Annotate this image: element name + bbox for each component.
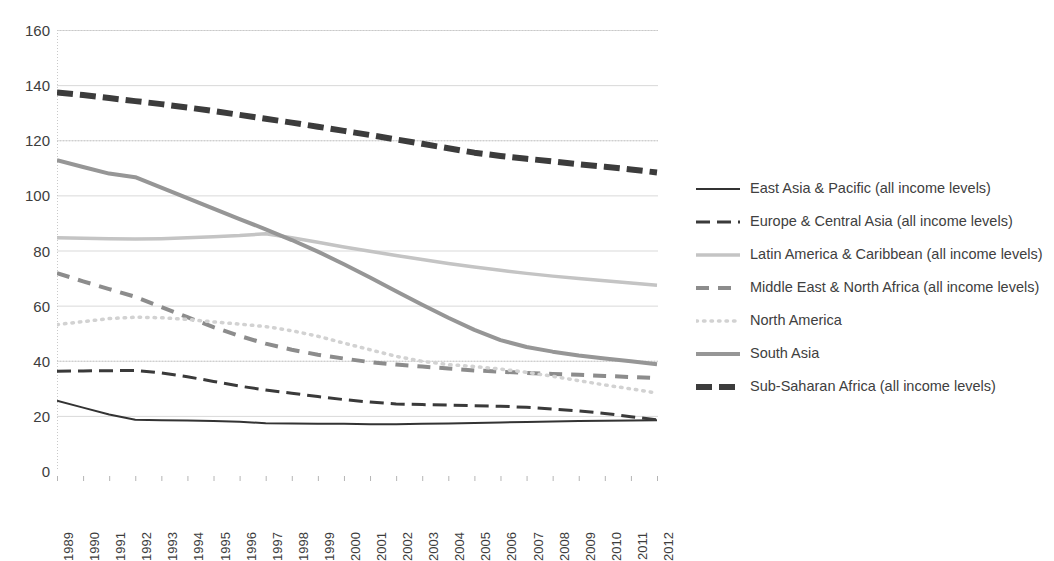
x-tick-label: 2008 [558, 532, 571, 561]
x-tick-label: 1992 [140, 532, 153, 561]
x-tick-label: 1993 [166, 532, 179, 561]
x-tick-label: 1998 [297, 532, 310, 561]
x-tick-label: 1991 [114, 532, 127, 561]
x-tick-label: 1990 [88, 532, 101, 561]
legend-swatch-icon [696, 182, 740, 196]
legend-swatch-icon [696, 347, 740, 361]
y-tick-label: 20 [6, 408, 50, 423]
x-tick-label: 2010 [610, 532, 623, 561]
x-tick-label: 1989 [62, 532, 75, 561]
legend-item[interactable]: Europe & Central Asia (all income levels… [696, 205, 1048, 238]
legend-item[interactable]: South Asia [696, 337, 1048, 370]
series-line-3 [57, 273, 657, 378]
x-tick-label: 2012 [662, 532, 675, 561]
legend-item[interactable]: East Asia & Pacific (all income levels) [696, 172, 1048, 205]
legend-label: South Asia [750, 346, 819, 361]
chart-svg [57, 30, 658, 471]
x-tick-label: 2005 [479, 532, 492, 561]
y-tick-label: 40 [6, 353, 50, 368]
legend-item[interactable]: Latin America & Caribbean (all income le… [696, 238, 1048, 271]
y-tick-label: 140 [6, 78, 50, 93]
legend-label: Sub-Saharan Africa (all income levels) [750, 379, 996, 394]
x-tick-label: 2003 [427, 532, 440, 561]
x-tick-label: 2004 [453, 532, 466, 561]
legend-label: Latin America & Caribbean (all income le… [750, 247, 1043, 262]
series-line-0 [57, 401, 657, 424]
series-line-2 [57, 234, 657, 286]
y-tick-label: 160 [6, 23, 50, 38]
legend-label: North America [750, 313, 842, 328]
x-tick-label: 2000 [349, 532, 362, 561]
x-tick-label: 1996 [245, 532, 258, 561]
y-tick-label: 120 [6, 133, 50, 148]
x-axis-ticks [57, 476, 658, 482]
legend-swatch-icon [696, 248, 740, 262]
legend-swatch-icon [696, 314, 740, 328]
legend-label: Middle East & North Africa (all income l… [750, 280, 1039, 295]
x-tick-label: 1994 [192, 532, 205, 561]
x-tick-label: 1997 [271, 532, 284, 561]
legend-label: Europe & Central Asia (all income levels… [750, 214, 1013, 229]
series-line-6 [57, 93, 657, 173]
y-tick-label: 0 [6, 464, 50, 479]
x-tick-label: 2007 [532, 532, 545, 561]
chart-legend: East Asia & Pacific (all income levels)E… [696, 172, 1048, 403]
legend-swatch-icon [696, 215, 740, 229]
x-tick-label: 2002 [401, 532, 414, 561]
legend-item[interactable]: North America [696, 304, 1048, 337]
legend-item[interactable]: Sub-Saharan Africa (all income levels) [696, 370, 1048, 403]
x-tick-label: 2006 [505, 532, 518, 561]
y-tick-label: 80 [6, 243, 50, 258]
plot-area [57, 30, 658, 471]
x-tick-label: 1999 [323, 532, 336, 561]
legend-swatch-icon [696, 380, 740, 394]
x-axis: 1989199019911992199319941995199619971998… [57, 476, 658, 534]
legend-swatch-icon [696, 281, 740, 295]
series-line-1 [57, 370, 657, 419]
y-tick-label: 100 [6, 188, 50, 203]
legend-item[interactable]: Middle East & North Africa (all income l… [696, 271, 1048, 304]
x-tick-label: 2011 [636, 532, 649, 560]
y-tick-label: 60 [6, 298, 50, 313]
y-axis: 020406080100120140160 [0, 30, 50, 471]
legend-label: East Asia & Pacific (all income levels) [750, 181, 991, 196]
series-line-5 [57, 160, 657, 364]
x-tick-label: 2001 [375, 532, 388, 561]
x-tick-label: 1995 [219, 532, 232, 561]
x-tick-label: 2009 [584, 532, 597, 561]
